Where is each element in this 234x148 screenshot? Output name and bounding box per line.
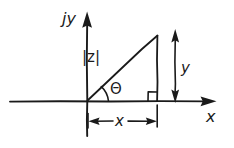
right-angle-square-icon bbox=[148, 92, 157, 101]
x-dimension-label: x bbox=[114, 112, 124, 130]
right-angle-marker bbox=[148, 92, 157, 101]
phasor-hypotenuse bbox=[88, 36, 158, 101]
diagram-canvas: jy x |z| Θ x y bbox=[0, 0, 234, 148]
phasor-triangle bbox=[88, 36, 158, 102]
real-axis-arrowhead-icon bbox=[201, 96, 217, 106]
imaginary-axis bbox=[82, 12, 92, 137]
y-dimension-label: y bbox=[180, 59, 191, 77]
y-dimension-line bbox=[175, 38, 176, 96]
imaginary-axis-arrowhead-icon bbox=[82, 12, 92, 28]
imaginary-axis-label: jy bbox=[60, 9, 76, 28]
real-axis-label: x bbox=[205, 107, 216, 126]
theta-label: Θ bbox=[110, 80, 122, 98]
magnitude-label: |z| bbox=[82, 48, 100, 66]
phasor-diagram: jy x |z| Θ x y bbox=[0, 0, 234, 148]
theta-angle-arc bbox=[101, 87, 108, 102]
y-dimension bbox=[171, 29, 179, 103]
angle-arc-group bbox=[101, 87, 108, 102]
